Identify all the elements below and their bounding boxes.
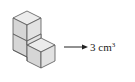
right-arrow-icon [64,45,88,50]
cube-stack [13,11,55,68]
volume-value: 3 [90,41,96,53]
volume-exponent: 3 [112,41,116,49]
volume-label: 3 cm3 [90,40,115,54]
volume-unit: cm [98,41,111,53]
